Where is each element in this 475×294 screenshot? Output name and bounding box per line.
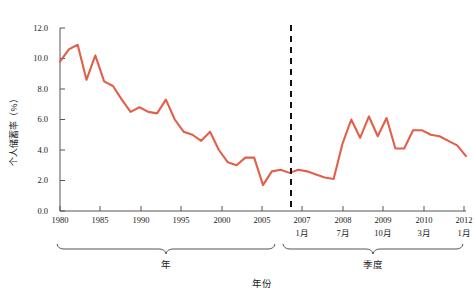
x-axis-title: 年份 [252, 278, 272, 289]
x-tick-sublabel: 7月 [336, 228, 349, 238]
x-tick-marks [60, 206, 464, 211]
y-axis-label: 个人储蓄率（%） [8, 94, 19, 165]
quarter-group-label: 季度 [363, 259, 383, 270]
y-tick-label: 2.0 [37, 175, 48, 185]
y-axis-ticks: 12.0 10.0 8.0 6.0 4.0 2.0 0.0 [33, 23, 48, 216]
x-tick-label: 2008 [335, 215, 352, 225]
x-tick-label: 2000 [214, 215, 231, 225]
year-group-label: 年 [161, 259, 171, 270]
year-group-brace [57, 244, 275, 254]
x-tick-label: 1990 [133, 215, 150, 225]
y-tick-label: 10.0 [33, 53, 48, 63]
x-tick-label: 2009 [375, 215, 392, 225]
savings-rate-line-chart: 个人储蓄率（%） 12.0 10.0 8.0 6.0 4.0 2.0 0.0 [0, 0, 475, 294]
x-tick-sublabel: 10月 [374, 228, 392, 238]
x-tick-label: 1980 [52, 215, 69, 225]
chart-figure: 个人储蓄率（%） 12.0 10.0 8.0 6.0 4.0 2.0 0.0 [0, 0, 475, 294]
x-axis-year-labels: 1980 1985 1990 1995 2000 2005 [52, 215, 271, 225]
y-tick-label: 6.0 [37, 114, 48, 124]
x-tick-label: 2007 [294, 215, 311, 225]
x-tick-sublabel: 3月 [417, 228, 430, 238]
x-tick-sublabel: 1月 [457, 228, 470, 238]
x-tick-label: 1995 [173, 215, 190, 225]
data-series-line [60, 45, 466, 185]
x-tick-sublabel: 1月 [295, 228, 308, 238]
x-tick-label: 2010 [416, 215, 433, 225]
y-tick-label: 12.0 [33, 23, 48, 33]
y-tick-label: 8.0 [37, 84, 48, 94]
y-tick-label: 0.0 [37, 206, 48, 216]
quarter-group-brace [283, 244, 463, 254]
x-tick-label: 2005 [254, 215, 271, 225]
x-axis-quarter-labels: 2007 2008 2009 2010 2012 1月 7月 10月 3月 1月 [294, 215, 473, 238]
x-tick-label: 2012 [456, 215, 473, 225]
x-tick-label: 1985 [92, 215, 109, 225]
y-tick-label: 4.0 [37, 145, 48, 155]
